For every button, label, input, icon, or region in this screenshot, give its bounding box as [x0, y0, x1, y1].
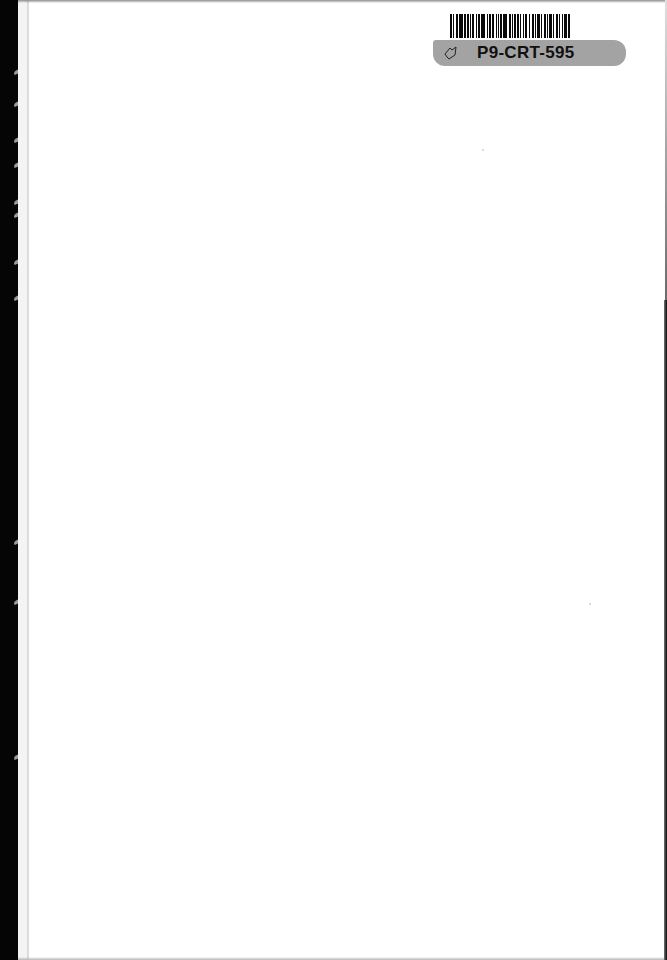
blank-page	[29, 3, 664, 957]
book-binding-shadow	[0, 0, 18, 960]
barcode-number: P9-CRT-595	[477, 43, 574, 63]
scanned-page: P9-CRT-595	[0, 0, 667, 960]
left-page-margin	[18, 0, 27, 960]
top-edge-shadow	[18, 0, 667, 3]
paper-speck	[589, 603, 591, 605]
library-barcode-sticker: P9-CRT-595	[424, 6, 632, 72]
paper-speck	[482, 149, 484, 151]
barcode-space	[570, 14, 572, 38]
barcode-bars	[450, 14, 572, 38]
tag-outline-icon	[443, 45, 459, 61]
barcode-label: P9-CRT-595	[433, 40, 626, 66]
